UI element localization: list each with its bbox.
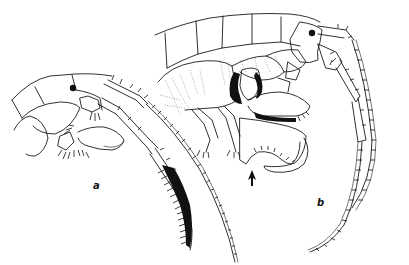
specimen-b-pereopod-2	[218, 106, 240, 152]
figure-canvas	[0, 0, 409, 265]
specimen-a-gnathopod-dactyl	[104, 142, 124, 147]
specimen-a	[12, 74, 238, 262]
specimen-a-antenna1-flagellum-inner	[148, 101, 238, 262]
specimen-b-pereopod-1	[192, 108, 218, 152]
specimen-b-coxa-3	[266, 50, 306, 72]
specimen-b-antenna2-article-2	[352, 98, 366, 142]
specimen-b-antenna2-peduncle	[318, 44, 342, 70]
specimen-b-arrow-icon	[248, 170, 256, 186]
specimen-a-antenna2-setae-mass	[162, 165, 192, 248]
specimen-b-pereopod-setae	[197, 150, 240, 158]
specimen-b-gnathopod1-propodus	[248, 92, 310, 116]
specimen-a-segment-2	[35, 87, 44, 104]
specimen-b-head	[290, 22, 322, 63]
specimen-a-antenna1-peduncle	[104, 80, 148, 108]
specimen-b-pereon-segments	[165, 14, 281, 68]
specimen-b-coxa-1	[158, 61, 238, 110]
specimen-b-coxa-stipple-2	[220, 56, 280, 90]
specimen-b-dorsal-outline	[155, 14, 320, 36]
specimen-a-antenna-base	[80, 96, 100, 112]
specimen-b-eye	[309, 30, 315, 36]
panel-label-a: a	[93, 180, 100, 191]
specimen-a-antenna1-annulations	[152, 105, 237, 254]
specimen-b-gnathopod2-propodus	[240, 118, 306, 164]
specimen-a-coxa-1	[22, 102, 80, 134]
specimen-a-eye	[70, 85, 76, 91]
specimen-b-antenna2-flagellum-inner	[308, 142, 358, 250]
panel-label-b: b	[317, 197, 324, 208]
specimen-a-peduncle-spines	[112, 75, 176, 170]
specimen-a-coxa-2	[14, 116, 48, 156]
specimen-a-mouthparts	[58, 132, 74, 150]
specimen-a-setae-cluster	[58, 150, 89, 159]
specimen-a-segment-1	[12, 100, 22, 118]
specimen-b-antenna2-article-1	[336, 60, 360, 102]
